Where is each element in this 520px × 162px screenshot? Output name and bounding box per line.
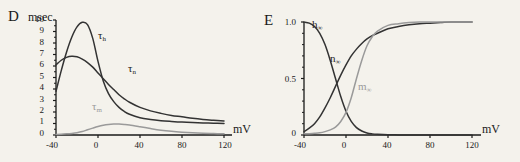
- panel-E-plot: [260, 0, 520, 162]
- figure-container: D msec 0 1 2 3 4 5 6 7 8 9 10 -40 0 40 8…: [0, 0, 520, 162]
- panel-E: E 0 0.5 1.0 -40 0 40 80 120 mV h∞ n∞ m∞: [260, 0, 520, 162]
- panel-D-plot: [0, 0, 260, 162]
- panel-D: D msec 0 1 2 3 4 5 6 7 8 9 10 -40 0 40 8…: [0, 0, 260, 162]
